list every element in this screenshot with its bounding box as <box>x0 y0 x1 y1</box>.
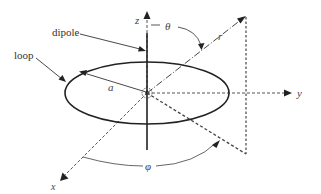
z-axis-label: z <box>134 14 140 26</box>
x-arrow-icon <box>60 173 69 182</box>
phi-arrow-icon <box>212 140 220 148</box>
loop-arrow-icon <box>59 75 67 82</box>
y-arrow-icon <box>284 90 292 97</box>
loop-leader <box>36 58 66 82</box>
dipole-leader <box>80 34 146 52</box>
dipole-arrow-icon <box>138 46 146 52</box>
phi-arc <box>83 140 220 166</box>
y-axis-label: y <box>296 87 302 99</box>
r-label: r <box>218 30 223 42</box>
z-arrow-icon <box>144 11 151 19</box>
theta-arc <box>151 25 205 50</box>
radius-label: a <box>108 81 114 93</box>
r-vector <box>147 16 246 93</box>
y-axis <box>147 90 292 97</box>
theta-arrow-icon <box>198 43 205 50</box>
theta-label: θ <box>165 20 171 32</box>
x-axis-label: x <box>50 181 56 192</box>
loop-label: loop <box>14 49 34 61</box>
phi-label: φ <box>145 160 151 172</box>
dipole-label: dipole <box>52 26 80 38</box>
r-arrow-icon <box>237 16 246 24</box>
loop-dipole-diagram: z y x r θ φ <box>0 0 321 194</box>
